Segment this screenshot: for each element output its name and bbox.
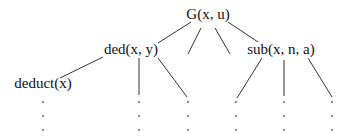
edge-ded-ellipsis-col-3 (158, 58, 187, 97)
ellipsis-dot (331, 101, 333, 103)
edge-root-sub (228, 22, 258, 42)
ellipsis-dot (283, 101, 285, 103)
ellipsis-dot (331, 115, 333, 117)
ellipsis-dot (42, 129, 44, 131)
node-root: G(x, u) (186, 6, 229, 23)
edge-sub-ellipsis-col-4 (237, 58, 262, 98)
ellipsis-dots (42, 101, 333, 131)
tree-diagram: G(x, u) ded(x, y) sub(x, n, a) deduct(x) (0, 0, 350, 140)
edge-root-unlabeled-2 (215, 28, 230, 54)
ellipsis-dot (235, 101, 237, 103)
ellipsis-dot (138, 129, 140, 131)
ellipsis-dot (187, 115, 189, 117)
ellipsis-dot (235, 115, 237, 117)
ellipsis-dot (283, 129, 285, 131)
edge-sub-ellipsis-col-6 (308, 58, 332, 97)
ellipsis-dot (187, 129, 189, 131)
ellipsis-dot (187, 101, 189, 103)
ellipsis-dot (138, 101, 140, 103)
edge-root-ded (158, 22, 191, 43)
node-ded: ded(x, y) (104, 41, 158, 58)
ellipsis-dot (42, 101, 44, 103)
node-deduct: deduct(x) (14, 75, 71, 92)
ellipsis-dot (42, 115, 44, 117)
ellipsis-dot (138, 115, 140, 117)
tree-edges (60, 22, 332, 98)
ellipsis-dot (283, 115, 285, 117)
edge-root-unlabeled-1 (188, 28, 201, 54)
ellipsis-dot (331, 129, 333, 131)
node-labels: G(x, u) ded(x, y) sub(x, n, a) deduct(x) (14, 6, 314, 92)
ellipsis-dot (235, 129, 237, 131)
node-sub: sub(x, n, a) (247, 41, 315, 58)
